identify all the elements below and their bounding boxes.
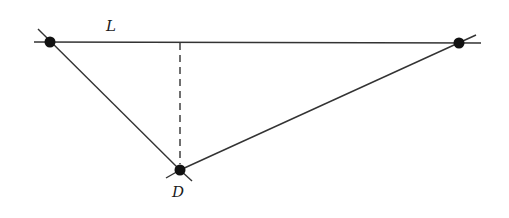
- segment-left-to-D: [38, 29, 180, 170]
- segment-D-to-right: [180, 35, 476, 170]
- label-D: D: [171, 183, 184, 201]
- line-L: [34, 42, 481, 43]
- label-L: L: [105, 17, 116, 35]
- triangle-diagram: L D: [0, 0, 509, 218]
- point-left: [45, 37, 56, 48]
- point-D: [175, 165, 186, 176]
- point-right: [454, 38, 465, 49]
